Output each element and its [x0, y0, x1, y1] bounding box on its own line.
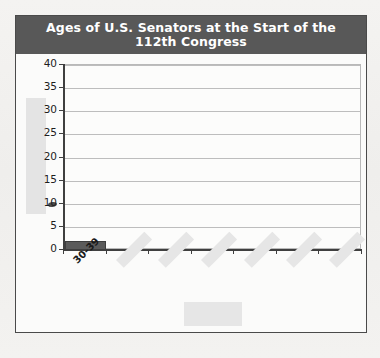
- y-axis-tick-mark: [59, 203, 63, 204]
- y-axis-tick-label: 35: [33, 80, 57, 92]
- y-axis-tick-mark: [59, 157, 63, 158]
- y-axis-tick-label: 10: [33, 196, 57, 208]
- y-axis-tick-label: 40: [33, 57, 57, 69]
- gridline: [64, 111, 360, 112]
- x-axis-title-redacted: [184, 302, 242, 326]
- y-axis-tick-mark: [59, 226, 63, 227]
- x-axis-tick-mark: [191, 249, 192, 254]
- gridline: [64, 204, 360, 205]
- plot-region: 0510152025303540 30-39: [16, 54, 366, 332]
- x-axis-tick-mark: [106, 249, 107, 254]
- y-axis-tick-label: 20: [33, 150, 57, 162]
- y-axis-tick-label: 0: [33, 242, 57, 254]
- y-axis-tick-mark: [59, 180, 63, 181]
- x-axis-tick-mark: [361, 249, 362, 254]
- x-axis-tick-mark: [318, 249, 319, 254]
- gridline: [64, 181, 360, 182]
- chart-title-line-2: 112th Congress: [135, 34, 247, 49]
- gridline: [64, 88, 360, 89]
- x-axis-tick-mark: [63, 249, 64, 254]
- y-axis-tick-label: 5: [33, 219, 57, 231]
- gridline: [64, 65, 360, 66]
- gridline: [64, 227, 360, 228]
- chart-title: Ages of U.S. Senators at the Start of th…: [46, 21, 336, 50]
- gridline: [64, 134, 360, 135]
- gridline: [64, 158, 360, 159]
- y-axis-tick-label: 30: [33, 103, 57, 115]
- chart-title-banner: Ages of U.S. Senators at the Start of th…: [16, 16, 366, 54]
- x-axis-tick-mark: [276, 249, 277, 254]
- x-axis-tick-mark: [233, 249, 234, 254]
- y-axis-tick-mark: [59, 133, 63, 134]
- y-axis-tick-mark: [59, 87, 63, 88]
- y-axis-line: [63, 64, 65, 250]
- x-axis-tick-mark: [148, 249, 149, 254]
- y-axis-tick-mark: [59, 64, 63, 65]
- y-axis-tick-label: 25: [33, 126, 57, 138]
- y-axis-tick-label: 15: [33, 173, 57, 185]
- y-axis-tick-mark: [59, 110, 63, 111]
- figure-frame: Ages of U.S. Senators at the Start of th…: [15, 15, 367, 333]
- chart-title-line-1: Ages of U.S. Senators at the Start of th…: [46, 20, 336, 35]
- plot-area: [63, 64, 361, 249]
